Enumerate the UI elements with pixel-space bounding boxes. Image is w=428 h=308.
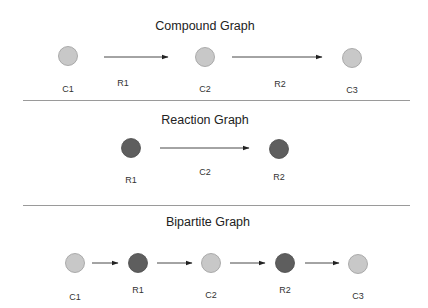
reaction-graph-nodes: R1R2	[122, 139, 289, 186]
bipartite-graph-nodes: C1R1C2R2C3	[66, 254, 368, 303]
reaction-node-circle	[129, 254, 148, 273]
node-label: C3	[346, 85, 358, 95]
node-label: C1	[69, 292, 81, 302]
node-label: R1	[132, 285, 144, 295]
reaction-graph-panel: Reaction Graph C2 R1R2	[23, 113, 410, 206]
reaction-node-circle	[276, 254, 295, 273]
compound-node-circle	[343, 49, 362, 68]
node-label: C3	[352, 291, 364, 301]
bipartite-graph-title: Bipartite Graph	[166, 215, 250, 229]
compound-graph-panel: Compound Graph R1R2 C1C2C3	[23, 19, 410, 101]
compound-graph-nodes: C1C2C3	[59, 47, 362, 96]
reaction-graph-edges: C2	[160, 148, 249, 177]
compound-node-circle	[196, 48, 215, 67]
node-label: R1	[125, 175, 137, 185]
reaction-node-circle	[122, 139, 141, 158]
compound-node-circle	[349, 255, 368, 274]
node-label: R2	[273, 172, 285, 182]
edge-label: C2	[199, 167, 211, 177]
compound-node-circle	[66, 254, 85, 273]
node-label: R2	[279, 285, 291, 295]
compound-node-circle	[59, 47, 78, 66]
bipartite-graph-panel: Bipartite Graph C1R1C2R2C3	[66, 215, 368, 302]
reaction-graph-title: Reaction Graph	[161, 113, 249, 127]
node-label: C1	[62, 84, 74, 94]
edge-label: R2	[274, 79, 286, 89]
compound-graph-title: Compound Graph	[155, 19, 254, 33]
node-label: C2	[199, 84, 211, 94]
graph-comparison-diagram: Compound Graph R1R2 C1C2C3 Reaction Grap…	[0, 0, 428, 308]
node-label: C2	[205, 290, 217, 300]
compound-node-circle	[202, 254, 221, 273]
reaction-node-circle	[270, 140, 289, 159]
edge-label: R1	[117, 78, 129, 88]
